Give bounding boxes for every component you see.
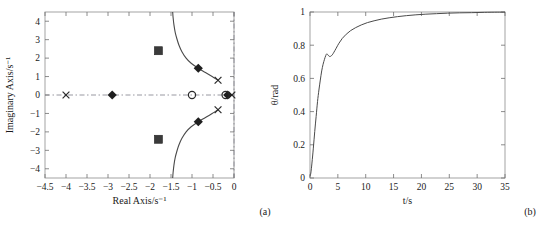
root-marker-diamond [108,90,117,99]
root-locus-plot: −4.5−4−3.5−3−2.5−2−1.5−1−0.50−4−3−2−1012… [0,0,265,205]
y-tick-label: −4 [30,164,40,174]
x-tick-label: 0 [308,182,313,192]
y-tick-label: 1 [300,7,305,17]
x-tick-label: −1 [187,182,197,192]
x-tick-label: −4.5 [36,182,53,192]
x-tick-label: −3.5 [78,182,95,192]
y-tick-label: 1 [35,72,40,82]
x-tick-label: −2 [145,182,155,192]
y-tick-label: 0 [300,173,305,183]
design-marker-square [154,135,162,143]
x-tick-label: 0 [232,182,237,192]
y-tick-label: 3 [35,35,40,45]
x-tick-label: 10 [361,182,371,192]
y-tick-label: 0.4 [293,107,305,117]
y-tick-label: 0.8 [293,41,305,51]
locus-branch [173,12,218,80]
x-tick-label: −2.5 [120,182,137,192]
x-tick-label: −3 [103,182,113,192]
y-tick-label: 4 [35,17,40,27]
pole-marker-x [215,77,222,84]
x-axis-label: t/s [403,195,413,205]
x-tick-label: −0.5 [204,182,221,192]
x-tick-label: 15 [389,182,399,192]
panel-b-step-response: 0510152025303500.20.40.60.81t/sθ/rad [265,0,530,235]
y-tick-label: −2 [30,127,40,137]
x-tick-label: 20 [417,182,427,192]
plot-frame [310,12,505,178]
y-tick-label: 0.2 [293,140,305,150]
step-response-plot: 0510152025303500.20.40.60.81t/sθ/rad [265,0,530,205]
step-response-curve [310,12,505,176]
x-tick-label: 25 [445,182,455,192]
design-marker-square [154,47,162,55]
y-tick-label: 0 [35,90,40,100]
panel-b-caption: (b) [265,206,541,217]
y-tick-label: −1 [30,109,40,119]
x-tick-label: −4 [61,182,71,192]
y-tick-label: 2 [35,53,40,63]
pole-marker-x [215,106,222,113]
x-tick-label: −1.5 [162,182,179,192]
y-axis-label: θ/rad [269,85,280,105]
y-tick-label: −3 [30,146,40,156]
panel-a-root-locus: −4.5−4−3.5−3−2.5−2−1.5−1−0.50−4−3−2−1012… [0,0,265,235]
y-axis-label: Imaginary Axis/s⁻¹ [4,57,15,134]
root-marker-diamond [194,117,203,126]
root-marker-diamond [194,64,203,73]
x-tick-label: 30 [472,182,482,192]
locus-branch [173,110,218,178]
y-tick-label: 0.6 [293,74,305,84]
x-tick-label: 5 [335,182,340,192]
x-tick-label: 35 [500,182,510,192]
x-axis-label: Real Axis/s⁻¹ [113,195,167,205]
